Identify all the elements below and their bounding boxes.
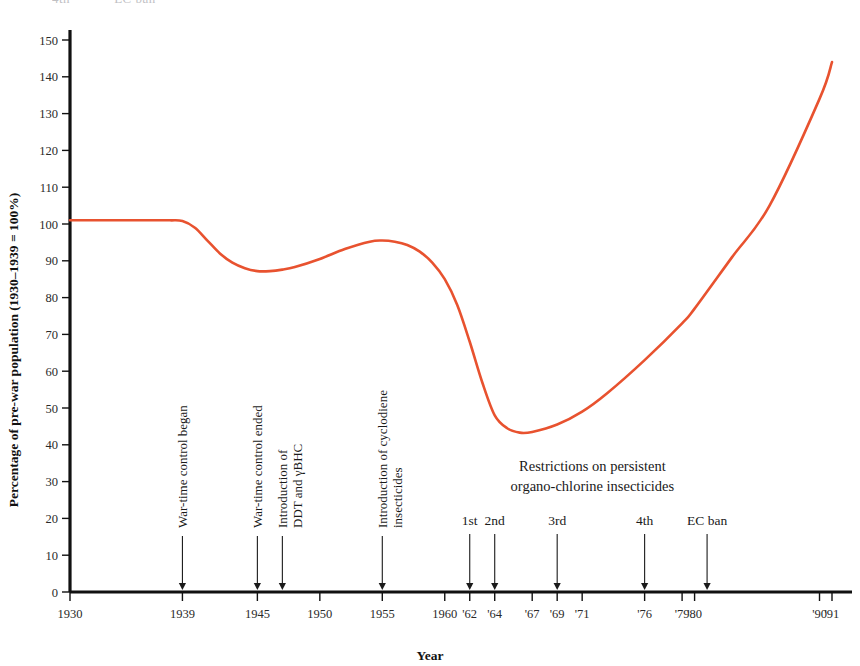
x-tick-label: 1955: [370, 607, 395, 621]
y-tick-label: 70: [46, 328, 59, 342]
annotation-label: insecticides: [390, 467, 405, 528]
x-tick-label: '80: [687, 607, 702, 621]
restrictions-group-title: Restrictions on persistentorgano-chlorin…: [511, 458, 675, 494]
restriction-arrow: [641, 534, 648, 590]
restriction-marker-1: 1st: [462, 513, 478, 590]
restrictions-title-line: Restrictions on persistent: [519, 458, 666, 474]
y-tick-label: 50: [46, 402, 59, 416]
x-tick-label: 1939: [170, 607, 195, 621]
annotation-arrow: [179, 536, 186, 590]
annotation-arrow: [254, 536, 261, 590]
clipped-header-left: 4th: [52, 0, 70, 5]
annotation-label: DDT and γBHC: [290, 444, 305, 528]
y-tick-label: 60: [46, 365, 59, 379]
restriction-label: 3rd: [548, 513, 566, 528]
restriction-marker-4: 4th: [636, 513, 654, 590]
annotation-2: War-time control ended: [250, 405, 265, 590]
population-trend-line: [70, 62, 832, 433]
x-tick-label: 1950: [307, 607, 332, 621]
y-tick-label: 90: [46, 254, 59, 268]
restriction-arrow: [491, 534, 498, 590]
y-tick-label: 40: [46, 438, 59, 452]
line-chart-svg: Percentage of pre-war population (1930–1…: [0, 0, 860, 666]
x-axis-tick-labels: 193019391945195019551960'62'64'67'69'71'…: [58, 607, 840, 621]
x-tick-label: '69: [550, 607, 565, 621]
y-tick-label: 100: [39, 218, 58, 232]
x-tick-label: 1930: [58, 607, 83, 621]
y-tick-label: 120: [39, 144, 58, 158]
y-tick-label: 20: [46, 512, 59, 526]
y-tick-label: 140: [39, 70, 58, 84]
x-tick-label: 1945: [245, 607, 270, 621]
y-tick-label: 0: [52, 586, 58, 600]
restriction-label: 1st: [462, 513, 478, 528]
annotation-arrow: [379, 536, 386, 590]
x-tick-label: '67: [525, 607, 540, 621]
annotation-label: War-time control began: [175, 405, 190, 528]
annotation-1: War-time control began: [175, 405, 190, 590]
y-tick-label: 80: [46, 291, 59, 305]
annotation-3: Introduction ofDDT and γBHC: [275, 444, 305, 590]
restriction-label: EC ban: [687, 513, 727, 528]
annotation-arrow: [279, 536, 286, 590]
annotation-label: Introduction of: [275, 449, 290, 528]
y-axis-title: Percentage of pre-war population (1930–1…: [6, 193, 21, 507]
x-tick-label: '91: [825, 607, 840, 621]
restriction-label: 4th: [636, 513, 654, 528]
y-tick-label: 30: [46, 475, 59, 489]
x-tick-label: 1960: [432, 607, 457, 621]
restriction-arrow: [703, 534, 710, 590]
y-tick-label: 150: [39, 34, 58, 48]
clipped-header-text: 4thEC ban: [52, 0, 352, 5]
y-axis-tick-labels: 0102030405060708090100110120130140150: [39, 34, 58, 600]
y-tick-label: 130: [39, 107, 58, 121]
x-tick-label: '62: [462, 607, 477, 621]
chart-figure: 4thEC ban Percentage of pre-war populati…: [0, 0, 860, 666]
y-tick-label: 10: [46, 549, 59, 563]
annotation-4: Introduction of cyclodieneinsecticides: [375, 390, 405, 590]
restriction-arrow: [466, 534, 473, 590]
restriction-arrow: [554, 534, 561, 590]
restriction-label: 2nd: [485, 513, 506, 528]
y-tick-label: 110: [40, 181, 58, 195]
annotation-label: Introduction of cyclodiene: [375, 390, 390, 528]
restriction-marker-5: EC ban: [687, 513, 727, 590]
x-tick-label: '64: [487, 607, 503, 621]
clipped-header-right: EC ban: [114, 0, 156, 5]
x-tick-label: '71: [575, 607, 590, 621]
restriction-marker-3: 3rd: [548, 513, 566, 590]
x-tick-label: '76: [637, 607, 652, 621]
restrictions-title-line: organo-chlorine insecticides: [511, 478, 675, 494]
restriction-marker-2: 2nd: [485, 513, 506, 590]
annotation-label: War-time control ended: [250, 405, 265, 528]
x-axis-title: Year: [417, 648, 444, 663]
